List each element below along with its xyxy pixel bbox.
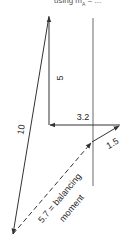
label-1-5: 1.5 xyxy=(105,136,121,151)
vector-5-7-balancing-arrow xyxy=(13,143,91,234)
label-10: 10 xyxy=(15,124,27,136)
label-3-2: 3.2 xyxy=(77,112,90,122)
label-5: 5 xyxy=(55,75,65,80)
moment-polygon-diagram: 5 3.2 1.5 10 5.7 = balancing moment xyxy=(0,0,136,248)
